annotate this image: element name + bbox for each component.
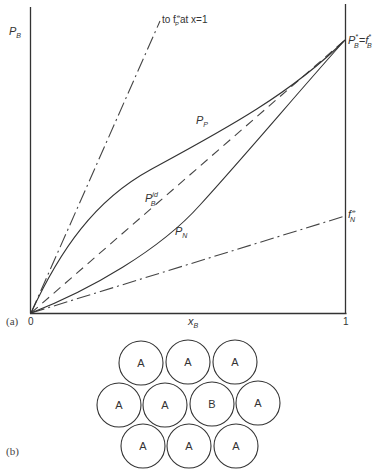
atom-label: A <box>161 399 169 411</box>
henry-p-label: to f⦵Pat x=1 <box>162 13 208 27</box>
atom-label: A <box>254 397 262 409</box>
panel-b-label: (b) <box>6 445 19 458</box>
atom-label: A <box>139 440 147 452</box>
lattice-row-2 <box>97 381 280 427</box>
atom-label: A <box>184 356 192 368</box>
curve-id-label: PidB <box>145 191 159 207</box>
atom-label: A <box>137 357 145 369</box>
atom-label: A <box>185 440 193 452</box>
atom-label: A <box>232 440 240 452</box>
henry-n-label: f⦵N <box>348 208 356 223</box>
panel-a-label: (a) <box>6 315 19 328</box>
x-tick-1: 1 <box>343 316 349 327</box>
curve-p-label: PP <box>196 114 208 128</box>
x-axis-label: xB <box>187 315 199 329</box>
henry-line-negative <box>31 216 345 313</box>
endpoint-label: P*B=f*B <box>348 33 372 49</box>
figure: PB to f⦵Pat x=1 P*B=f*B PP PidB PN f⦵N (… <box>0 0 377 472</box>
henry-line-positive <box>31 21 160 313</box>
atom-label: A <box>231 356 239 368</box>
atom-label-solute: B <box>208 398 215 410</box>
y-axis-label: PB <box>9 25 21 39</box>
atom-label: A <box>115 399 123 411</box>
curve-n-label: PN <box>175 225 188 239</box>
x-tick-0: 0 <box>28 316 34 327</box>
